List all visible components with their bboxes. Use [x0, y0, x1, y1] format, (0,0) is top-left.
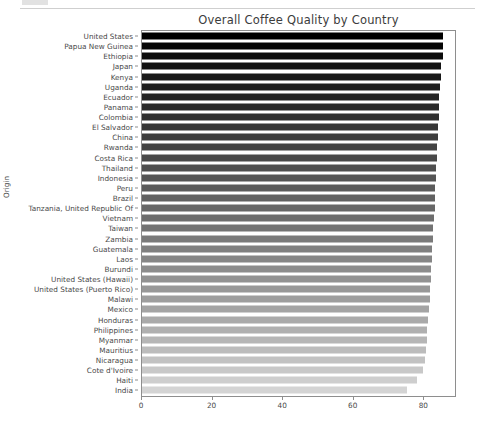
bar-row [142, 234, 455, 244]
bar-row [142, 41, 455, 51]
bar [142, 265, 431, 272]
bar [142, 316, 428, 323]
bar-row [142, 61, 455, 71]
y-tick-mark [135, 36, 138, 37]
y-tick-row: United States [0, 31, 138, 41]
y-tick-row: Ecuador [0, 92, 138, 102]
bar [142, 357, 425, 364]
y-tick-label: Japan [113, 62, 133, 71]
y-tick-row: Cote d'Ivoire [0, 365, 138, 375]
y-tick-label: Papua New Guinea [64, 42, 133, 51]
y-tick-mark [135, 198, 138, 199]
bar [142, 336, 427, 343]
bar [142, 43, 443, 50]
y-tick-label: Laos [116, 254, 133, 263]
y-tick-row: Rwanda [0, 142, 138, 152]
y-tick-mark [135, 76, 138, 77]
y-tick-row: Guatemala [0, 244, 138, 254]
y-tick-row: Haiti [0, 375, 138, 385]
bar-row [142, 284, 455, 294]
y-tick-row: Kenya [0, 72, 138, 82]
y-tick-label: Myanmar [99, 335, 133, 344]
bar-row [142, 112, 455, 122]
y-tick-mark [135, 46, 138, 47]
bar [142, 83, 440, 90]
y-axis-tick-labels: United StatesPapua New GuineaEthiopiaJap… [0, 31, 138, 396]
x-tick-mark [141, 397, 142, 400]
bar [142, 154, 437, 161]
y-tick-mark [135, 349, 138, 350]
bar-row [142, 72, 455, 82]
y-tick-row: Papua New Guinea [0, 41, 138, 51]
y-tick-label: Thailand [102, 163, 133, 172]
y-tick-mark [135, 56, 138, 57]
y-tick-label: Burundi [104, 264, 133, 273]
y-tick-row: Tanzania, United Republic Of [0, 203, 138, 213]
y-tick-label: El Salvador [92, 123, 133, 132]
x-axis-tick-labels: 020406080 [141, 397, 456, 417]
bar-row [142, 31, 455, 41]
x-tick-label: 20 [207, 401, 216, 410]
bar-row [142, 335, 455, 345]
y-tick-mark [135, 319, 138, 320]
y-tick-mark [135, 96, 138, 97]
bar [142, 205, 435, 212]
bar-row [142, 183, 455, 193]
y-tick-row: Taiwan [0, 223, 138, 233]
y-tick-label: India [115, 386, 133, 395]
y-tick-mark [135, 309, 138, 310]
y-tick-mark [135, 127, 138, 128]
y-tick-row: Laos [0, 254, 138, 264]
y-tick-label: Philippines [94, 325, 133, 334]
bar [142, 33, 443, 40]
bar [142, 367, 423, 374]
y-tick-mark [135, 177, 138, 178]
y-tick-label: Ethiopia [103, 52, 133, 61]
y-tick-mark [135, 117, 138, 118]
y-tick-mark [135, 258, 138, 259]
y-tick-row: United States (Puerto Rico) [0, 284, 138, 294]
bar [142, 195, 435, 202]
y-tick-mark [135, 86, 138, 87]
bar-row [142, 254, 455, 264]
y-tick-row: Philippines [0, 325, 138, 335]
bar-row [142, 345, 455, 355]
bar-row [142, 173, 455, 183]
bar-row [142, 223, 455, 233]
y-tick-row: Zambia [0, 234, 138, 244]
bar-row [142, 132, 455, 142]
bar-row [142, 315, 455, 325]
x-tick-mark [353, 397, 354, 400]
y-tick-mark [135, 289, 138, 290]
x-tick-mark [423, 397, 424, 400]
bar [142, 53, 443, 60]
y-tick-label: Peru [117, 183, 133, 192]
y-tick-row: Nicaragua [0, 355, 138, 365]
y-tick-mark [135, 147, 138, 148]
y-tick-row: Panama [0, 102, 138, 112]
bar-row [142, 365, 455, 375]
bar [142, 377, 417, 384]
y-tick-mark [135, 106, 138, 107]
bar-row [142, 82, 455, 92]
y-tick-row: Japan [0, 61, 138, 71]
y-tick-label: Taiwan [108, 224, 133, 233]
y-tick-row: Malawi [0, 294, 138, 304]
y-tick-mark [135, 299, 138, 300]
y-tick-mark [135, 279, 138, 280]
y-tick-label: United States (Hawaii) [51, 275, 133, 284]
bar [142, 93, 439, 100]
y-tick-mark [135, 137, 138, 138]
y-tick-label: Mexico [108, 305, 133, 314]
y-tick-label: Panama [104, 102, 133, 111]
bar-row [142, 203, 455, 213]
bar [142, 346, 426, 353]
y-tick-row: Mexico [0, 304, 138, 314]
bar [142, 235, 433, 242]
y-tick-label: Brazil [113, 194, 133, 203]
y-tick-row: Peru [0, 183, 138, 193]
y-tick-mark [135, 380, 138, 381]
bar-row [142, 274, 455, 284]
x-tick-mark [282, 397, 283, 400]
y-tick-label: Malawi [108, 295, 133, 304]
